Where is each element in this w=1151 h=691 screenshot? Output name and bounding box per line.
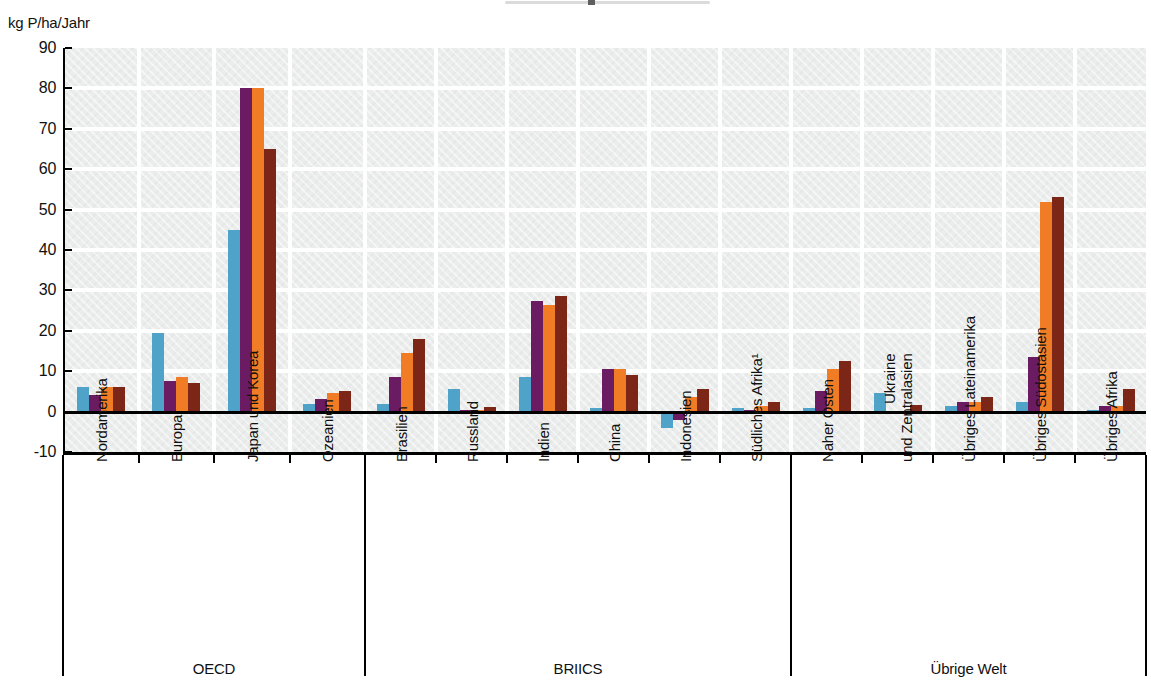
category-label: Übriges Lateinamerika bbox=[960, 316, 977, 462]
horizontal-gridline bbox=[63, 127, 1146, 131]
category-boundary-tick bbox=[719, 455, 721, 463]
bar-blue bbox=[661, 412, 673, 428]
y-axis-tick-label: 20 bbox=[12, 323, 56, 339]
y-axis-tick bbox=[65, 209, 72, 211]
y-axis-tick bbox=[65, 330, 72, 332]
y-axis-tick-label: 90 bbox=[12, 40, 56, 56]
category-boundary-tick bbox=[577, 455, 579, 463]
category-label: Europa bbox=[168, 415, 185, 462]
category-boundary-tick bbox=[138, 455, 140, 463]
category-boundary-tick bbox=[213, 455, 215, 463]
category-boundary-tick bbox=[861, 455, 863, 463]
zero-baseline bbox=[63, 411, 1146, 414]
bar-blue bbox=[228, 230, 240, 412]
y-axis-tick bbox=[65, 249, 72, 251]
plot-area bbox=[63, 48, 1146, 452]
bar-dark-red bbox=[697, 389, 709, 411]
category-label: Übriges Afrika bbox=[1102, 371, 1119, 462]
phosphorus-balance-bar-chart: kg P/ha/Jahr 9080706050403020100-10OECDB… bbox=[0, 0, 1151, 691]
bar-dark-red bbox=[264, 149, 276, 412]
bar-orange bbox=[176, 377, 188, 411]
y-axis-tick-label: 80 bbox=[12, 80, 56, 96]
horizontal-gridline bbox=[63, 329, 1146, 333]
bar-dark-red bbox=[555, 296, 567, 411]
bar-dark-red bbox=[339, 391, 351, 411]
section-label-oecd: OECD bbox=[63, 660, 365, 677]
category-boundary-tick bbox=[506, 455, 508, 463]
section-label-briics: BRIICS bbox=[365, 660, 791, 677]
bar-orange bbox=[614, 369, 626, 411]
category-label: Nordamerika bbox=[92, 378, 109, 462]
category-label: Japan und Korea bbox=[243, 351, 260, 462]
y-axis-tick-label: 0 bbox=[12, 404, 56, 420]
y-axis-tick-label: 40 bbox=[12, 242, 56, 258]
y-axis-tick bbox=[65, 168, 72, 170]
category-boundary-tick bbox=[289, 455, 291, 463]
y-axis-tick-label: 60 bbox=[12, 161, 56, 177]
category-boundary-tick bbox=[1003, 455, 1005, 463]
category-label: Südliches Afrika¹ bbox=[747, 354, 764, 462]
y-axis-tick-label: 30 bbox=[12, 282, 56, 298]
category-label: China bbox=[605, 424, 622, 462]
y-axis-tick bbox=[65, 289, 72, 291]
y-axis-tick bbox=[65, 47, 72, 49]
y-axis-tick bbox=[65, 411, 72, 413]
category-label: Naher Osten bbox=[818, 379, 835, 462]
bar-dark-red bbox=[188, 383, 200, 411]
bar-blue bbox=[448, 389, 460, 412]
section-divider bbox=[62, 455, 64, 676]
category-label: Ukraine und Zentralasien bbox=[881, 353, 915, 462]
category-boundary-tick bbox=[1074, 455, 1076, 463]
category-label: Indien bbox=[534, 422, 551, 462]
y-axis-tick-label: 50 bbox=[12, 202, 56, 218]
bar-dark-red bbox=[626, 375, 638, 411]
y-axis-tick-label: 10 bbox=[12, 363, 56, 379]
section-divider bbox=[1145, 455, 1147, 676]
bar-dark-red bbox=[1123, 389, 1135, 411]
bar-dark-red bbox=[839, 361, 851, 412]
category-label: Brasilien bbox=[392, 406, 409, 462]
cropped-title-dot bbox=[588, 0, 595, 5]
horizontal-gridline bbox=[63, 248, 1146, 252]
y-axis-tick-label: 70 bbox=[12, 121, 56, 137]
bar-purple bbox=[602, 369, 614, 411]
y-axis-tick bbox=[65, 87, 72, 89]
bar-purple bbox=[531, 301, 543, 412]
section-divider bbox=[790, 455, 792, 676]
bar-dark-red bbox=[113, 387, 125, 411]
category-label: Übriges Südostasien bbox=[1031, 327, 1048, 462]
cropped-title-remnant bbox=[505, 1, 710, 4]
y-axis-title: kg P/ha/Jahr bbox=[8, 14, 90, 31]
horizontal-gridline bbox=[63, 208, 1146, 212]
category-label: Russland bbox=[463, 401, 480, 462]
bar-dark-red bbox=[413, 339, 425, 412]
category-label: Indonesien bbox=[676, 391, 693, 462]
horizontal-gridline bbox=[63, 288, 1146, 292]
y-axis-tick bbox=[65, 128, 72, 130]
category-label: Ozeanien bbox=[319, 399, 336, 462]
bar-blue bbox=[152, 333, 164, 412]
x-axis-line bbox=[63, 452, 1146, 455]
bar-dark-red bbox=[981, 397, 993, 411]
y-axis-tick bbox=[65, 370, 72, 372]
bar-dark-red bbox=[1052, 197, 1064, 411]
section-divider bbox=[364, 455, 366, 676]
bar-purple bbox=[164, 381, 176, 411]
bar-blue bbox=[519, 377, 531, 411]
category-boundary-tick bbox=[435, 455, 437, 463]
section-label-übrige-welt: Übrige Welt bbox=[791, 660, 1146, 677]
y-axis-tick-label: -10 bbox=[12, 444, 56, 460]
y-axis-line bbox=[63, 48, 65, 454]
bar-orange bbox=[401, 353, 413, 412]
category-boundary-tick bbox=[932, 455, 934, 463]
bar-orange bbox=[543, 305, 555, 412]
category-boundary-tick bbox=[648, 455, 650, 463]
bar-blue bbox=[77, 387, 89, 411]
horizontal-gridline bbox=[63, 86, 1146, 90]
horizontal-gridline bbox=[63, 167, 1146, 171]
